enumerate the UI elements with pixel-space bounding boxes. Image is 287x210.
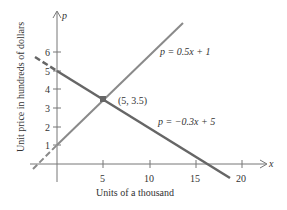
y-tick-label: 4 [45, 84, 50, 95]
supply-demand-chart: 5 10 15 20 x 1 2 3 4 5 6 p (5, 3.5) p = … [0, 0, 287, 210]
y-tick-label: 6 [45, 47, 50, 58]
intersection-point [100, 96, 106, 102]
x-tick-label: 15 [190, 173, 200, 184]
x-tick-label: 5 [100, 173, 105, 184]
demand-line-label: p = −0.3x + 5 [157, 116, 215, 127]
y-axis-symbol: p [61, 10, 67, 21]
y-tick-label: 3 [45, 103, 50, 114]
x-tick-label: 10 [144, 173, 154, 184]
y-tick-label: 5 [45, 66, 50, 77]
intersection-label: (5, 3.5) [118, 95, 147, 107]
x-axis-title: Units of a thousand [96, 187, 174, 198]
y-axis-title: Unit price in hundreds of dollars [15, 22, 26, 152]
y-tick-label: 2 [45, 122, 50, 133]
supply-line-label: p = 0.5x + 1 [159, 46, 210, 57]
x-axis-symbol: x [268, 158, 274, 169]
y-tick-label: 1 [45, 140, 50, 151]
x-tick-label: 20 [236, 173, 246, 184]
